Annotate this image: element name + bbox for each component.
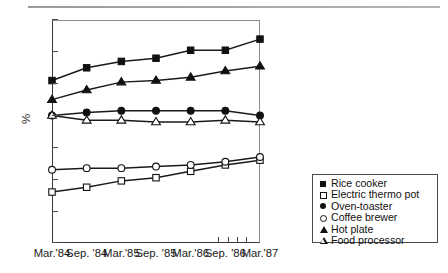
data-point-square-filled — [222, 47, 228, 53]
data-point-square-filled — [83, 65, 89, 71]
chart-root: 010203040506070 % Mar.'84Sep. '84Mar.'85… — [0, 0, 448, 273]
y-tick-mark — [52, 19, 58, 20]
data-point-circle-filled — [222, 107, 229, 114]
data-point-square-open — [118, 178, 124, 184]
legend-item[interactable]: Electric thermo pot — [318, 189, 437, 200]
y-tick-mark — [52, 211, 58, 212]
data-point-circle-open — [222, 158, 229, 165]
data-point-triangle-open — [221, 116, 230, 123]
legend-marker-triangle-filled-icon — [318, 224, 331, 235]
legend-marker-square-open-icon — [318, 189, 331, 200]
data-point-square-open — [187, 168, 193, 174]
y-tick-mark — [52, 242, 58, 243]
data-point-square-open — [49, 189, 55, 195]
legend-item-label: Oven-toaster — [331, 201, 392, 212]
data-point-circle-open — [118, 165, 125, 172]
legend-item-label: Electric thermo pot — [331, 189, 419, 200]
data-point-square-filled — [187, 47, 193, 53]
legend-item-label: Rice cooker — [331, 178, 387, 189]
data-point-square-open — [153, 174, 159, 180]
legend-item[interactable]: Hot plate — [318, 224, 437, 235]
data-point-square-filled — [118, 58, 124, 64]
legend-item[interactable]: Oven-toaster — [318, 201, 437, 212]
data-point-circle-open — [153, 163, 160, 170]
data-point-circle-open — [83, 165, 90, 172]
data-point-circle-filled — [187, 107, 194, 114]
y-tick-mark — [52, 83, 58, 84]
y-tick-mark — [52, 147, 58, 148]
legend-item[interactable]: Rice cooker — [318, 178, 437, 189]
data-point-circle-filled — [118, 107, 125, 114]
data-point-circle-open — [257, 154, 264, 161]
y-tick-mark — [52, 115, 58, 116]
data-point-square-filled — [153, 55, 159, 61]
legend-marker-triangle-open-icon — [318, 235, 331, 246]
data-point-circle-filled — [83, 109, 90, 116]
data-point-circle-open — [49, 166, 56, 173]
legend-item-label: Coffee brewer — [331, 212, 397, 223]
chart-legend: Rice cookerElectric thermo potOven-toast… — [312, 174, 438, 243]
data-point-triangle-open — [117, 116, 126, 123]
legend-marker-square-filled-icon — [318, 178, 331, 189]
legend-item[interactable]: Coffee brewer — [318, 212, 437, 223]
y-tick-mark — [52, 179, 58, 180]
legend-item-label: Food processor — [331, 235, 405, 246]
legend-marker-circle-filled-icon — [318, 201, 331, 212]
data-point-circle-open — [187, 162, 194, 169]
data-point-square-filled — [257, 36, 263, 42]
data-point-triangle-filled — [256, 62, 265, 69]
legend-item[interactable]: Food processor — [318, 235, 437, 246]
data-point-circle-filled — [153, 107, 160, 114]
data-point-square-open — [83, 184, 89, 190]
y-tick-mark — [52, 51, 58, 52]
legend-item-label: Hot plate — [331, 224, 373, 235]
legend-marker-circle-open-icon — [318, 212, 331, 223]
